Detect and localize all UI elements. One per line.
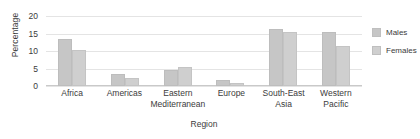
gridline [46,86,362,87]
x-axis-tick-label: Europe [205,88,257,109]
bar-males[interactable] [58,39,72,86]
y-axis-tick-label: 0 [8,81,38,91]
bar-females[interactable] [72,50,86,86]
bar-group [257,16,310,86]
bar-groups [46,16,362,86]
bar-group [309,16,362,86]
bar-females[interactable] [230,83,244,87]
bar-males[interactable] [164,70,178,86]
bar-group [151,16,204,86]
bar-males[interactable] [111,74,125,86]
legend-label: Males [386,28,407,37]
y-axis-tick-label: 15 [8,29,38,39]
x-axis-tick-label: Africa [46,88,98,109]
legend-swatch-icon [372,46,381,55]
bar-females[interactable] [178,67,192,86]
bar-males[interactable] [216,80,230,86]
legend: MalesFemales [372,28,417,64]
y-axis-tick-label: 20 [8,11,38,21]
x-axis-tick-label: South-EastAsia [258,88,310,109]
bar-group [204,16,257,86]
x-axis-tick-labels: AfricaAmericasEasternMediterraneanEurope… [46,88,362,109]
x-axis-tick-label: EasternMediterranean [150,88,205,109]
legend-swatch-icon [372,28,381,37]
plot-area: 05101520 [46,16,362,86]
y-axis-tick-label: 5 [8,64,38,74]
x-axis-tick-label: WesternPacific [310,88,362,109]
bar-group [46,16,99,86]
bar-females[interactable] [336,46,350,86]
bar-males[interactable] [269,29,283,86]
bar-males[interactable] [322,32,336,86]
bar-chart: Percentage 05101520 AfricaAmericasEaster… [0,0,420,139]
legend-label: Females [386,46,417,55]
x-axis-title: Region [46,119,362,129]
legend-item[interactable]: Males [372,28,417,37]
bar-females[interactable] [125,78,139,86]
legend-item[interactable]: Females [372,46,417,55]
x-axis-tick-label: Americas [98,88,150,109]
bar-females[interactable] [283,32,297,86]
y-axis-tick-label: 10 [8,46,38,56]
bar-group [99,16,152,86]
